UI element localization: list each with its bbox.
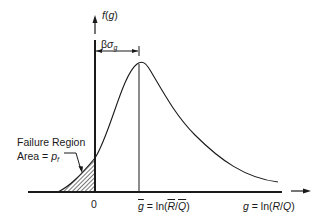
- pdf-diagram: [0, 0, 327, 219]
- mean-label: g = ln(R/Q): [138, 201, 190, 212]
- origin-label: 0: [91, 199, 97, 210]
- y-axis-arrow-icon: [93, 15, 98, 23]
- beta-sigma-label: βσg: [101, 39, 117, 51]
- x-axis-arrow-icon: [303, 189, 311, 194]
- x-axis-label: g = ln(R/Q): [243, 201, 295, 212]
- failure-region-label: Failure Region Area = pf: [17, 137, 85, 163]
- beta-sigma-arrow-right-icon: [132, 49, 138, 53]
- y-axis-label: f(g): [102, 10, 118, 21]
- failure-region-hatch: [58, 158, 95, 192]
